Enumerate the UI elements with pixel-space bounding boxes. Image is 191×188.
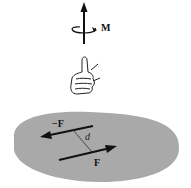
- neg-force-label: −F: [52, 118, 64, 129]
- moment-vector: M: [72, 2, 111, 44]
- force-label: F: [94, 157, 100, 168]
- rigid-body: [14, 112, 179, 182]
- moment-label: M: [101, 22, 111, 33]
- right-hand-icon: [71, 57, 100, 94]
- moment-arrowhead-icon: [81, 2, 88, 12]
- couple-moment-diagram: M −F d F: [0, 0, 191, 188]
